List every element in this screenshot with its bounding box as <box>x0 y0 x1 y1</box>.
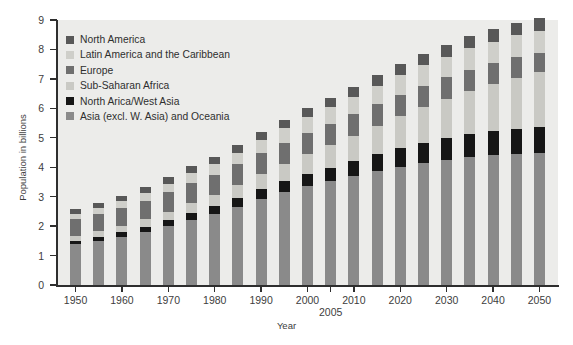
bar-2045 <box>511 23 522 285</box>
chart-legend: North AmericaLatin America and the Carib… <box>66 33 230 123</box>
segment-1955 <box>93 231 104 237</box>
segment-1980 <box>209 206 220 214</box>
bar-2010 <box>348 87 359 285</box>
x-tick-label: 1990 <box>249 294 272 306</box>
x-tick <box>330 286 331 292</box>
bar-2025 <box>418 54 429 285</box>
segment-1955 <box>93 214 104 231</box>
x-tick <box>121 286 122 292</box>
segment-2010 <box>348 161 359 176</box>
legend-label: Europe <box>80 64 113 77</box>
segment-1985 <box>232 198 243 207</box>
legend-label: North Arica/West Asia <box>80 95 179 108</box>
segment-2020 <box>395 167 406 285</box>
segment-2045 <box>511 78 522 129</box>
legend-item: North Arica/West Asia <box>66 95 230 108</box>
segment-2030 <box>441 77 452 98</box>
segment-2015 <box>372 126 383 154</box>
legend-swatch-icon <box>66 66 74 74</box>
y-tick <box>50 255 57 256</box>
segment-1955 <box>93 237 104 241</box>
segment-1975 <box>186 220 197 285</box>
segment-1985 <box>232 185 243 198</box>
segment-1960 <box>116 237 127 285</box>
x-tick-label: 1970 <box>157 294 180 306</box>
legend-label: North America <box>80 33 145 46</box>
segment-2050 <box>534 18 545 31</box>
legend-swatch-icon <box>66 82 74 90</box>
segment-2020 <box>395 75 406 94</box>
segment-2025 <box>418 107 429 143</box>
segment-1970 <box>163 226 174 285</box>
segment-1995 <box>279 128 290 142</box>
bar-1965 <box>140 187 151 285</box>
x-tick-label: 2030 <box>435 294 458 306</box>
segment-2000 <box>302 174 313 187</box>
segment-2010 <box>348 87 359 97</box>
segment-1980 <box>209 195 220 206</box>
segment-2030 <box>441 57 452 78</box>
segment-1955 <box>93 203 104 209</box>
x-tick <box>539 286 540 292</box>
bar-1960 <box>116 196 127 286</box>
segment-1995 <box>279 164 290 181</box>
segment-2050 <box>534 53 545 73</box>
segment-1950 <box>70 214 81 219</box>
bar-2005 <box>325 98 336 285</box>
segment-2035 <box>464 70 475 91</box>
y-tick <box>50 49 57 50</box>
legend-item: Latin America and the Caribbean <box>66 48 230 61</box>
segment-1970 <box>163 177 174 184</box>
bar-1990 <box>256 132 267 285</box>
segment-1950 <box>70 219 81 235</box>
x-tick <box>168 286 169 292</box>
bar-1975 <box>186 166 197 285</box>
bar-1950 <box>70 209 81 285</box>
legend-label: Latin America and the Caribbean <box>80 48 230 61</box>
segment-1980 <box>209 157 220 164</box>
segment-2000 <box>302 186 313 285</box>
y-tick <box>50 225 57 226</box>
segment-1985 <box>232 153 243 165</box>
segment-2035 <box>464 48 475 69</box>
legend-label: Sub-Saharan Africa <box>80 79 169 92</box>
segment-2035 <box>464 36 475 48</box>
y-tick-label: 8 <box>0 43 44 55</box>
legend-item: Sub-Saharan Africa <box>66 79 230 92</box>
segment-1975 <box>186 166 197 173</box>
segment-2050 <box>534 31 545 53</box>
x-tick <box>353 286 354 292</box>
segment-1970 <box>163 212 174 221</box>
segment-2005 <box>325 107 336 123</box>
x-tick <box>75 286 76 292</box>
x-tick-label: 1960 <box>110 294 133 306</box>
legend-item: Asia (excl. W. Asia) and Oceania <box>66 110 230 123</box>
legend-item: Europe <box>66 64 230 77</box>
segment-2010 <box>348 114 359 136</box>
y-tick-label: 1 <box>0 250 44 262</box>
legend-swatch-icon <box>66 112 74 120</box>
segment-2000 <box>302 108 313 117</box>
segment-2005 <box>325 98 336 108</box>
segment-1965 <box>140 232 151 285</box>
segment-2005 <box>325 168 336 182</box>
segment-2000 <box>302 117 313 132</box>
x-tick-label: 2040 <box>481 294 504 306</box>
bar-1955 <box>93 203 104 285</box>
segment-1990 <box>256 140 267 153</box>
y-tick <box>50 78 57 79</box>
segment-1985 <box>232 145 243 153</box>
x-tick-label: 1980 <box>203 294 226 306</box>
segment-2040 <box>488 42 499 64</box>
segment-2040 <box>488 63 499 84</box>
x-tick <box>214 286 215 292</box>
segment-2010 <box>348 176 359 285</box>
x-tick-label: 2010 <box>342 294 365 306</box>
segment-1985 <box>232 207 243 285</box>
bar-2035 <box>464 36 475 285</box>
segment-1975 <box>186 203 197 213</box>
segment-2020 <box>395 64 406 75</box>
segment-1990 <box>256 132 267 140</box>
y-tick <box>50 284 57 285</box>
segment-1985 <box>232 164 243 185</box>
